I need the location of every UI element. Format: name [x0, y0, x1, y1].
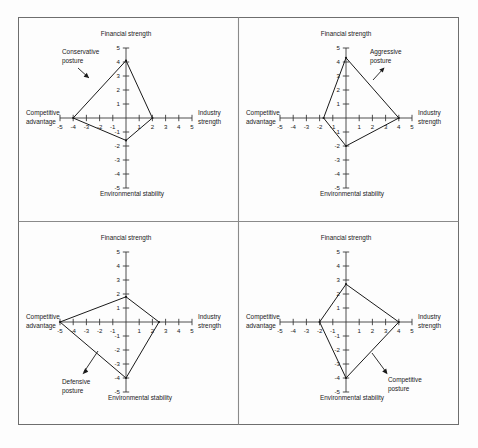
panel2-xtick-3: 3 — [164, 327, 168, 334]
panel-defensive: -5 -4 -3 -2 -1 1 2 3 4 5 5 4 3 2 1 -1 -2… — [26, 234, 222, 402]
panel1-ytick-5: 5 — [337, 44, 341, 51]
panel2-xtick--5: -5 — [57, 327, 63, 334]
panel3-right-axis-label-1: Industry — [418, 313, 442, 321]
panel1-xtick--5: -5 — [277, 123, 283, 130]
panel2-ytick--4: -4 — [115, 374, 121, 381]
panel1-top-axis-label: Financial strength — [321, 30, 372, 38]
panel1-xtick-2: 2 — [371, 123, 375, 130]
panel0-right-axis-label-1: Industry — [198, 109, 222, 117]
panel3-xtick--5: -5 — [277, 327, 283, 334]
panel3-ytick-3: 3 — [337, 276, 341, 283]
panel2-posture-label-line1: Defensive — [62, 378, 91, 385]
panel3-left-axis-label-2: advantage — [246, 322, 276, 330]
panel3-xtick--4: -4 — [290, 327, 296, 334]
panel1-posture-label-line2: posture — [370, 57, 392, 65]
panel2-ytick-1: 1 — [117, 304, 121, 311]
space-matrix-figure: -5 -4 -3 -2 -1 1 2 3 4 5 5 4 3 2 1 -1 -2… — [0, 0, 478, 448]
panel2-xtick-4: 4 — [177, 327, 181, 334]
panel3-xtick--3: -3 — [304, 327, 310, 334]
panel2-annotation-arrowhead — [83, 368, 89, 374]
panel0-posture-label-line2: posture — [62, 57, 84, 65]
panel3-bottom-axis-label: Environmental stability — [320, 394, 385, 402]
panel0-xtick-5: 5 — [190, 123, 194, 130]
panel3-xtick-3: 3 — [384, 327, 388, 334]
panel2-ytick--2: -2 — [115, 346, 121, 353]
panel-conservative: -5 -4 -3 -2 -1 1 2 3 4 5 5 4 3 2 1 -1 -2… — [26, 30, 222, 198]
panel3-ytick--1: -1 — [335, 332, 341, 339]
panel2-annotation-leader — [84, 351, 98, 372]
panel-aggressive: -5 -4 -3 -2 -1 1 2 3 4 5 5 4 3 2 1 -1 -2… — [246, 30, 442, 198]
panel0-left-axis-label-2: advantage — [26, 118, 56, 126]
panel2-posture-polygon — [60, 297, 159, 378]
panel1-right-axis-label-1: Industry — [418, 109, 442, 117]
panel1-ytick--1: -1 — [335, 128, 341, 135]
panel3-posture-label-line1: Competitive — [388, 376, 422, 384]
panel1-ytick--3: -3 — [335, 156, 341, 163]
panel2-right-axis-label-1: Industry — [198, 313, 222, 321]
panel1-xtick--2: -2 — [317, 123, 323, 130]
panel1-left-axis-label-2: advantage — [246, 118, 276, 126]
panel0-left-axis-label-1: Competitive — [26, 109, 60, 117]
panel2-right-axis-label-2: strength — [198, 322, 222, 330]
panel2-bottom-axis-label: Environmental stability — [108, 394, 173, 402]
panel0-ytick-3: 3 — [117, 72, 121, 79]
panel1-bottom-axis-label: Environmental stability — [320, 190, 385, 198]
panel0-ytick--1: -1 — [115, 128, 121, 135]
panel0-bottom-axis-label: Environmental stability — [100, 190, 165, 198]
panel3-ytick-4: 4 — [337, 262, 341, 269]
panel1-ytick-2: 2 — [337, 86, 341, 93]
panel0-xtick-4: 4 — [177, 123, 181, 130]
panel2-left-axis-label-1: Competitive — [26, 313, 60, 321]
panel0-ytick-2: 2 — [117, 86, 121, 93]
panel1-left-axis-label-1: Competitive — [246, 109, 280, 117]
panel3-xtick-4: 4 — [397, 327, 401, 334]
panel0-top-axis-label: Financial strength — [101, 30, 152, 38]
panel1-xtick-4: 4 — [397, 123, 401, 130]
panel2-left-axis-label-2: advantage — [26, 322, 56, 330]
panel0-ytick-4: 4 — [117, 58, 121, 65]
panel2-ytick-2: 2 — [117, 290, 121, 297]
panel0-ytick--3: -3 — [115, 156, 121, 163]
panel3-annotation-arrowhead — [382, 369, 387, 375]
panel3-xtick-1: 1 — [358, 327, 362, 334]
panel1-xtick-5: 5 — [410, 123, 414, 130]
panel1-posture-polygon — [324, 58, 399, 146]
panel2-xtick--2: -2 — [97, 327, 103, 334]
panel1-xtick--3: -3 — [304, 123, 310, 130]
panel1-xtick--4: -4 — [290, 123, 296, 130]
panel0-xtick--5: -5 — [57, 123, 63, 130]
panel3-ytick-1: 1 — [337, 304, 341, 311]
panel1-xtick-1: 1 — [358, 123, 362, 130]
panel1-ytick-4: 4 — [337, 58, 341, 65]
panel3-ytick-5: 5 — [337, 248, 341, 255]
panel2-ytick--3: -3 — [115, 360, 121, 367]
panel1-posture-label-line1: Aggressive — [370, 48, 402, 56]
panel2-xtick-1: 1 — [138, 327, 142, 334]
panel2-top-axis-label: Financial strength — [101, 234, 152, 242]
panel0-ytick--4: -4 — [115, 170, 121, 177]
panel0-ytick-1: 1 — [117, 100, 121, 107]
panel2-xtick-5: 5 — [190, 327, 194, 334]
panel2-ytick--1: -1 — [115, 332, 121, 339]
panel2-ytick-3: 3 — [117, 276, 121, 283]
panel2-ytick-5: 5 — [117, 248, 121, 255]
panel1-right-axis-label-2: strength — [418, 118, 442, 126]
panel2-xtick--3: -3 — [84, 327, 90, 334]
panel0-ytick-5: 5 — [117, 44, 121, 51]
panel-competitive: -5 -4 -3 -2 -1 1 2 3 4 5 5 4 3 2 1 -1 -2… — [246, 234, 442, 402]
panel3-left-axis-label-1: Competitive — [246, 313, 280, 321]
panel3-annotation-leader — [372, 353, 386, 372]
panel0-posture-label-line1: Conservative — [62, 48, 100, 55]
panel1-ytick--4: -4 — [335, 170, 341, 177]
panel2-ytick-4: 4 — [117, 262, 121, 269]
panel3-ytick--2: -2 — [335, 346, 341, 353]
panel3-posture-label-line2: posture — [388, 385, 410, 393]
panel3-right-axis-label-2: strength — [418, 322, 442, 330]
panel0-right-axis-label-2: strength — [198, 118, 222, 126]
panel0-xtick-3: 3 — [164, 123, 168, 130]
panel3-xtick-5: 5 — [410, 327, 414, 334]
panel1-ytick--2: -2 — [335, 142, 341, 149]
panel3-xtick-2: 2 — [371, 327, 375, 334]
panel3-top-axis-label: Financial strength — [321, 234, 372, 242]
panel3-ytick--4: -4 — [335, 374, 341, 381]
